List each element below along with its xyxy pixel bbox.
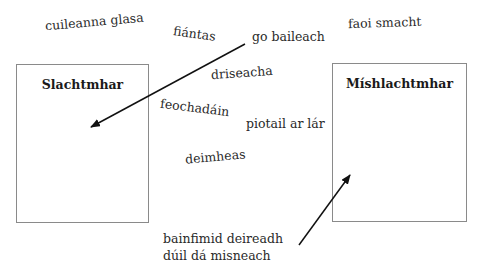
arrows-layer — [0, 0, 481, 270]
arrow-to-mishlachtmhar — [299, 175, 350, 245]
arrow-to-slachtmhar — [91, 44, 245, 127]
